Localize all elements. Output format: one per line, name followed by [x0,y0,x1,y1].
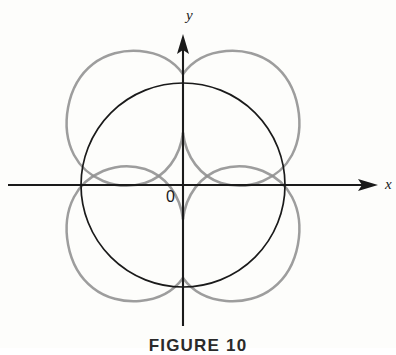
origin-label: 0 [166,189,175,205]
figure-caption: FIGURE 10 [0,336,396,355]
x-axis-label: x [385,177,392,192]
y-axis-label: y [186,8,193,23]
axes-group [8,34,378,326]
